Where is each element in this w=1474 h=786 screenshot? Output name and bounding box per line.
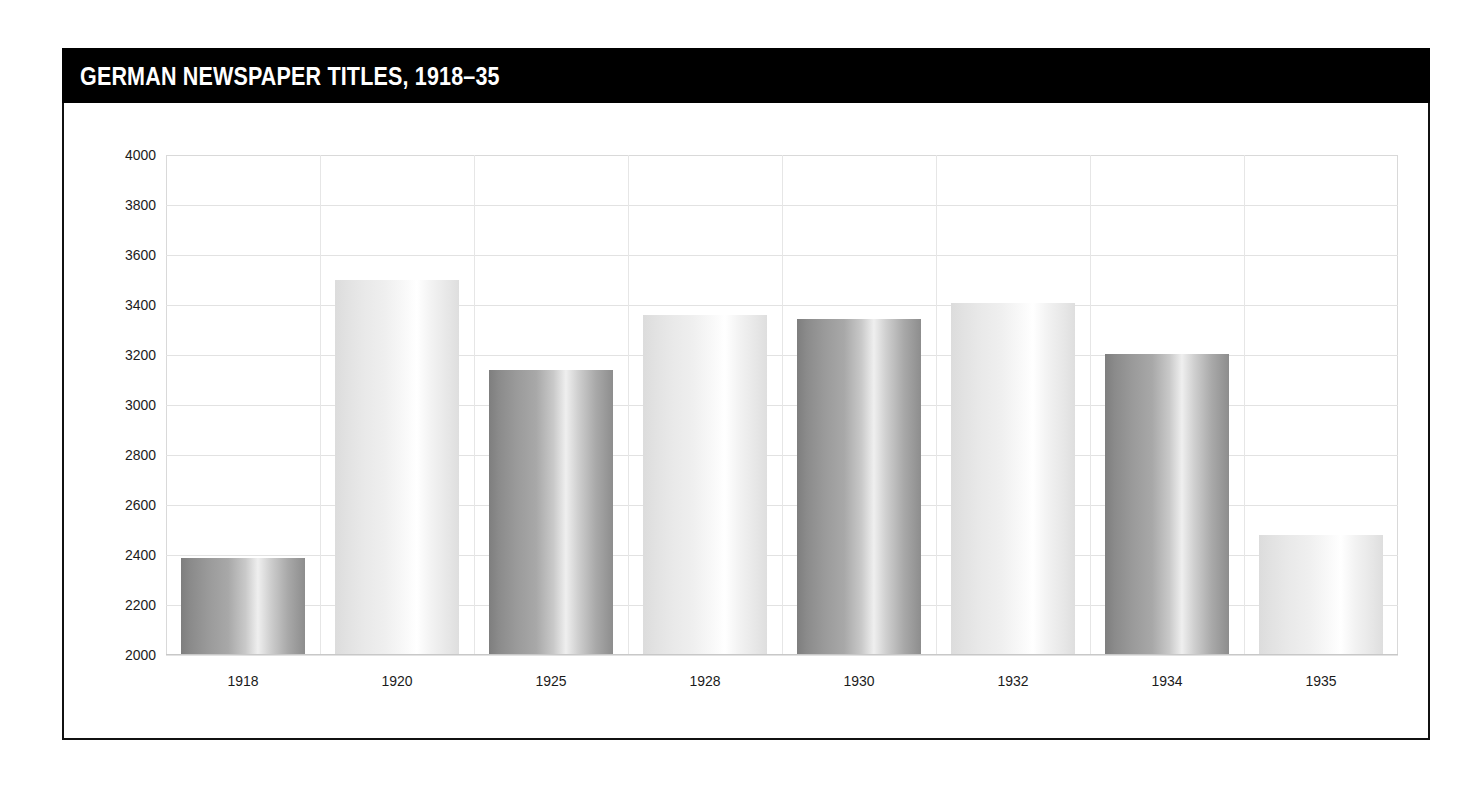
bar-1930[interactable] [797,319,920,655]
bar-slot [643,155,766,655]
x-axis-tick-label-1932: 1932 [944,672,1083,690]
bar-1925[interactable] [489,370,612,655]
x-axis-tick-label-1925: 1925 [482,672,621,690]
chart-title-bar: GERMAN NEWSPAPER TITLES, 1918–35 [62,48,1430,103]
bar-1918[interactable] [181,558,304,656]
bars-layer [166,155,1398,655]
bar-slot [489,155,612,655]
bar-slot [1259,155,1382,655]
bar-slot [181,155,304,655]
bar-slot [797,155,920,655]
page-title: GERMAN NEWSPAPER TITLES, 1918–35 [80,62,500,91]
bar-slot [335,155,458,655]
bar-slot [1105,155,1228,655]
bar-1932[interactable] [951,303,1074,656]
bar-slot [951,155,1074,655]
gridline-horizontal [166,655,1398,656]
x-axis-line [166,654,1398,655]
bar-1928[interactable] [643,315,766,655]
x-axis-tick-label-1935: 1935 [1252,672,1391,690]
x-axis-tick-label-1928: 1928 [636,672,775,690]
bar-1935[interactable] [1259,535,1382,655]
x-axis-tick-label-1934: 1934 [1098,672,1237,690]
x-axis-tick-label-1920: 1920 [328,672,467,690]
x-axis-tick-label-1918: 1918 [174,672,313,690]
x-axis-category-labels: 19181920192519281930193219341935 [166,672,1398,702]
bar-1934[interactable] [1105,354,1228,655]
chart-screenshot: GERMAN NEWSPAPER TITLES, 1918–35 4000380… [0,0,1474,786]
plot-area [166,155,1398,655]
x-axis-tick-label-1930: 1930 [790,672,929,690]
bar-1920[interactable] [335,280,458,655]
